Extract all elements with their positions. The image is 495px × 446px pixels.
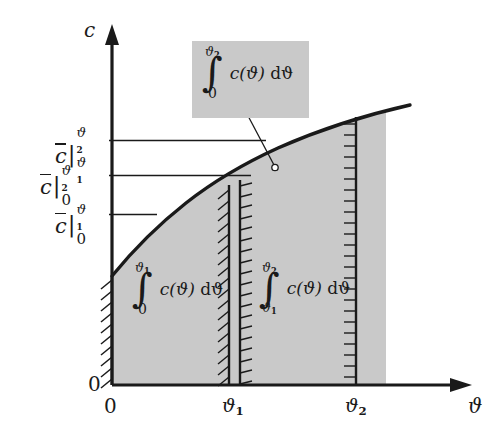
integral-theta1-theta2: ϑ2 ∫ ϑ1 c(ϑ) dϑ [259, 262, 350, 315]
integral-0-theta1-sign-column: ϑ1 ∫ 0 [132, 262, 153, 316]
x-tick-theta2-subscript: 2 [359, 404, 367, 418]
integral-0-theta2-callout: ϑ2 ∫ 0 c(ϑ) dϑ [202, 46, 293, 100]
x-tick-theta2-symbol: ϑ [345, 394, 359, 416]
integral-sign-icon: ∫ [259, 276, 280, 301]
cbar-symbol-2: c [40, 173, 52, 199]
x-tick-theta1-subscript: 1 [236, 404, 244, 418]
y-axis-label: c [84, 20, 95, 40]
origin-label-y: 0 [88, 374, 101, 394]
x-tick-theta1: ϑ1 [222, 396, 244, 418]
figure-canvas: c ϑ 0 0 ϑ1 ϑ2 c | ϑ2 ϑ1 c | ϑ2 0 c | ϑ1 … [0, 0, 495, 446]
integral-theta1-theta2-lower: ϑ1 [262, 302, 277, 315]
integral-0-theta1-lower: 0 [138, 302, 147, 316]
x-axis-arrowhead [450, 378, 472, 392]
cbar-upper-2: ϑ2 [62, 163, 72, 193]
y-label-cbar-0-theta1: c | ϑ1 0 [55, 202, 86, 248]
integral-theta1-theta2-body: c(ϑ) dϑ [287, 278, 350, 298]
integral-sign-icon: ∫ [132, 276, 153, 301]
cbar-lower-1: ϑ1 [77, 155, 87, 185]
cbar-symbol-3: c [55, 212, 67, 238]
x-tick-theta1-symbol: ϑ [222, 394, 236, 416]
cbar-limits-3: ϑ1 0 [77, 202, 87, 248]
cbar-limits-1: ϑ2 ϑ1 [77, 125, 87, 185]
integral-0-theta2-body: c(ϑ) dϑ [230, 63, 293, 83]
integral-0-theta2-lower: 0 [208, 86, 217, 100]
integral-sign-icon: ∫ [202, 60, 223, 85]
cbar-upper-3: ϑ1 [77, 202, 87, 232]
cbar-vertical-bar-2: | [53, 175, 61, 197]
integral-theta1-theta2-sign-column: ϑ2 ∫ ϑ1 [259, 262, 280, 315]
cbar-upper-1: ϑ2 [77, 125, 87, 155]
cbar-lower-3: 0 [77, 232, 87, 248]
origin-label-x: 0 [104, 396, 117, 416]
x-tick-theta2: ϑ2 [345, 396, 367, 418]
integral-0-theta2-sign-column: ϑ2 ∫ 0 [202, 46, 223, 100]
x-axis-label: ϑ [468, 396, 482, 416]
y-axis-arrowhead [105, 24, 119, 45]
integral-0-theta1-body: c(ϑ) dϑ [160, 279, 223, 299]
callout-marker-circle [272, 164, 278, 170]
cbar-vertical-bar-3: | [68, 214, 76, 236]
hatching-theta-0 [101, 280, 112, 388]
integral-0-theta1: ϑ1 ∫ 0 c(ϑ) dϑ [132, 262, 223, 316]
